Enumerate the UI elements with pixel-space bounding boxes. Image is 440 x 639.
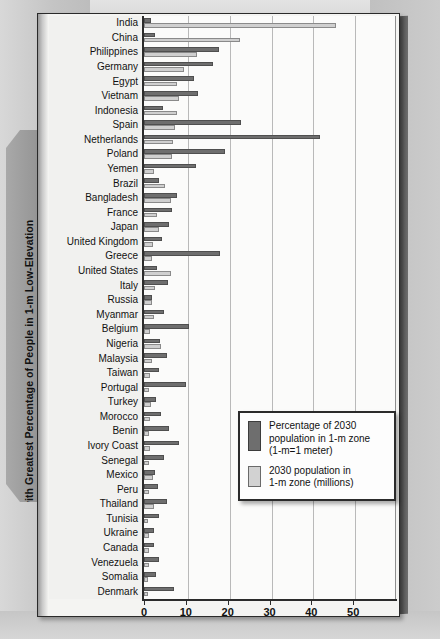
bar-population (144, 38, 240, 43)
bar-percentage (144, 164, 196, 169)
x-tick-label: 40 (305, 606, 317, 618)
bar-percentage (144, 251, 220, 256)
category-label: Egypt (48, 77, 138, 87)
category-label: Spain (48, 120, 138, 130)
category-label-column: IndiaChinaPhilippinesGermanyEgyptVietnam… (49, 16, 141, 599)
category-label: France (48, 208, 138, 218)
category-label: Philippines (48, 47, 138, 57)
category-label: Morocco (48, 412, 138, 422)
bar-percentage (144, 382, 186, 387)
x-tick-label: 20 (222, 606, 234, 618)
bar-population (144, 111, 177, 116)
bar-population (144, 388, 149, 393)
legend-label: Percentage of 2030population in 1-m zone… (269, 420, 370, 458)
bar-percentage (144, 441, 179, 446)
category-label: China (48, 33, 138, 43)
legend-swatch-dark (248, 421, 261, 451)
bar-percentage (144, 106, 163, 111)
bar-population (144, 344, 161, 349)
bar-percentage (144, 208, 172, 213)
bar-percentage (144, 543, 154, 548)
bar-percentage (144, 572, 156, 577)
bar-population (144, 431, 149, 436)
category-label: Denmark (48, 587, 138, 597)
category-label: Ivory Coast (48, 441, 138, 451)
chart-legend: Percentage of 2030population in 1-m zone… (238, 411, 396, 501)
gridline-50 (355, 16, 356, 599)
bar-percentage (144, 484, 158, 489)
category-label: Ukraine (48, 528, 138, 538)
category-label: Mexico (48, 470, 138, 480)
category-label: Venezuela (48, 558, 138, 568)
chart-panel: IndiaChinaPhilippinesGermanyEgyptVietnam… (37, 13, 400, 617)
bar-percentage (144, 557, 159, 562)
bar-population (144, 67, 184, 72)
bar-population (144, 198, 171, 203)
bar-percentage (144, 412, 161, 417)
x-tick-label: 50 (347, 606, 359, 618)
bar-percentage (144, 91, 198, 96)
category-label: Malaysia (48, 354, 138, 364)
bar-population (144, 82, 177, 87)
category-label: Nigeria (48, 339, 138, 349)
bar-population (144, 475, 153, 480)
category-label: Bangladesh (48, 193, 138, 203)
category-label: Japan (48, 222, 138, 232)
category-label: United States (48, 266, 138, 276)
category-label: United Kingdom (48, 237, 138, 247)
category-label: India (48, 18, 138, 28)
category-label: Thailand (48, 499, 138, 509)
bar-percentage (144, 499, 167, 504)
x-tick-label: 30 (263, 606, 275, 618)
bar-population (144, 373, 150, 378)
bar-percentage (144, 149, 225, 154)
x-tick-label: 0 (141, 606, 147, 618)
bar-percentage (144, 353, 167, 358)
bar-population (144, 23, 336, 28)
bar-percentage (144, 528, 154, 533)
gridline-20 (230, 16, 231, 599)
category-label: Poland (48, 149, 138, 159)
bar-population (144, 169, 154, 174)
bar-population (144, 446, 150, 451)
category-label: Netherlands (48, 135, 138, 145)
bar-percentage (144, 470, 155, 475)
bar-population (144, 271, 171, 276)
x-tick (144, 601, 145, 605)
category-label: Benin (48, 426, 138, 436)
bar-percentage (144, 222, 169, 227)
bar-percentage (144, 266, 157, 271)
legend-item: 2030 population in1-m zone (millions) (248, 465, 386, 490)
bar-population (144, 125, 175, 130)
bar-percentage (144, 280, 168, 285)
bar-percentage (144, 426, 169, 431)
bar-percentage (144, 120, 241, 125)
gridline-30 (272, 16, 273, 599)
bar-population (144, 461, 149, 466)
category-label: Greece (48, 251, 138, 261)
x-tick (353, 601, 354, 605)
category-label: Senegal (48, 456, 138, 466)
bar-population (144, 577, 148, 582)
category-label: Somalia (48, 572, 138, 582)
x-tick (270, 601, 271, 605)
bar-population (144, 329, 150, 334)
bar-population (144, 184, 165, 189)
bar-population (144, 140, 173, 145)
bar-population (144, 227, 159, 232)
category-label: Brazil (48, 179, 138, 189)
bar-population (144, 417, 150, 422)
category-label: Russia (48, 295, 138, 305)
bar-percentage (144, 47, 219, 52)
category-label: Vietnam (48, 91, 138, 101)
gridline-40 (313, 16, 314, 599)
bar-population (144, 300, 152, 305)
bar-population (144, 490, 149, 495)
bar-percentage (144, 324, 189, 329)
category-label: Italy (48, 281, 138, 291)
bar-population (144, 286, 155, 291)
category-label: Yemen (48, 164, 138, 174)
x-tick-label: 10 (180, 606, 192, 618)
bar-percentage (144, 295, 152, 300)
bar-percentage (144, 62, 213, 67)
